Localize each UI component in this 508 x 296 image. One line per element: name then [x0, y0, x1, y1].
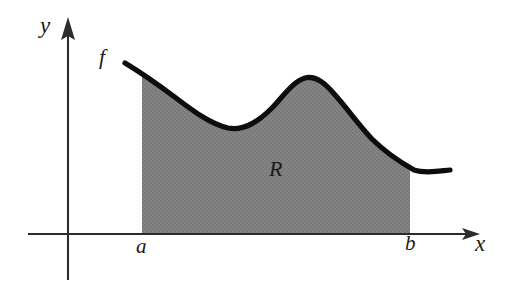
region-label-R: R [269, 158, 282, 180]
function-label-f: f [99, 46, 105, 68]
figure-canvas: y x f a b R [0, 0, 508, 296]
area-under-curve-figure [0, 0, 508, 296]
y-axis [61, 17, 75, 280]
y-axis-label: y [40, 14, 50, 37]
lower-limit-label-a: a [136, 236, 147, 257]
upper-limit-label-b: b [405, 233, 416, 254]
x-axis-label: x [475, 232, 485, 255]
